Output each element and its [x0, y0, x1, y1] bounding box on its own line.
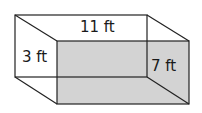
label-height: 3 ft — [22, 48, 47, 66]
edge-top-left — [15, 15, 57, 41]
prism-diagram: 11 ft 3 ft 7 ft — [0, 0, 202, 113]
label-depth: 7 ft — [151, 57, 176, 75]
edge-bottom-left — [15, 77, 57, 104]
edge-top-right — [147, 15, 189, 41]
label-length: 11 ft — [80, 18, 115, 36]
